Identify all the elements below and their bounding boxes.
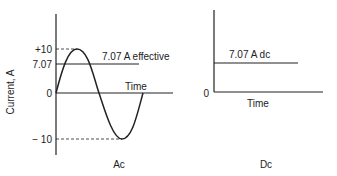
ac-sine-wave [56, 49, 143, 139]
ac-ylabel: Current, A [5, 69, 16, 114]
dc-chart: 0 7.07 A dc Time Dc [203, 10, 323, 170]
ac-caption: Ac [113, 159, 125, 170]
ac-tick-707: 7.07 [33, 59, 53, 70]
dc-level-label: 7.07 A dc [229, 49, 270, 60]
dc-time-label: Time [247, 98, 269, 109]
ac-time-label: Time [125, 81, 147, 92]
dc-caption: Dc [260, 159, 272, 170]
dc-tick-0: 0 [203, 88, 209, 99]
ac-dc-diagram: Current, A +10 7.07 0 − 10 7.07 A effect… [0, 0, 337, 176]
ac-tick-p10: +10 [35, 44, 52, 55]
ac-tick-m10: − 10 [32, 134, 52, 145]
ac-tick-0: 0 [46, 88, 52, 99]
ac-chart: Current, A +10 7.07 0 − 10 7.07 A effect… [5, 14, 173, 170]
ac-effective-label: 7.07 A effective [102, 51, 170, 62]
